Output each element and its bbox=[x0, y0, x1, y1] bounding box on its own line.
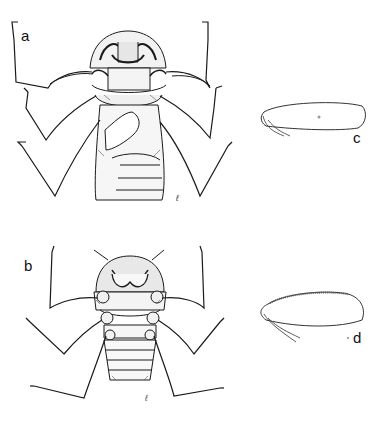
artist-signature-a: ℓ bbox=[176, 193, 179, 203]
dot-marker bbox=[347, 337, 349, 339]
panel-d: d bbox=[240, 280, 383, 360]
panel-b: b ℓ bbox=[0, 230, 240, 427]
panel-label-c: c bbox=[353, 130, 361, 145]
panel-label-d: d bbox=[353, 330, 361, 345]
panel-a: a ℓ bbox=[0, 0, 240, 215]
insect-ventral-illustration-a bbox=[0, 0, 240, 215]
artist-signature-b: ℓ bbox=[145, 393, 148, 403]
appendage-outline-d bbox=[240, 280, 383, 360]
panel-c: c bbox=[240, 100, 383, 180]
insect-ventral-illustration-b bbox=[0, 230, 240, 427]
appendage-outline-c bbox=[240, 100, 383, 180]
